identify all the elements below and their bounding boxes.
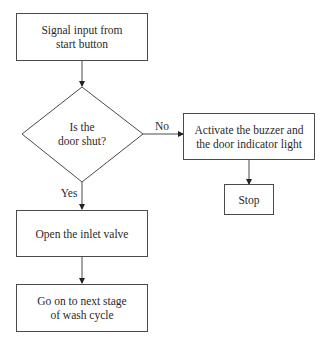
edge-label-yes: Yes	[58, 186, 80, 200]
open-valve-node-text: Open the inlet valve	[36, 227, 129, 241]
alarm-node: Activate the buzzer and the door indicat…	[183, 113, 315, 160]
open-valve-node: Open the inlet valve	[16, 210, 148, 257]
next-stage-node: Go on to next stage of wash cycle	[16, 284, 148, 332]
decision-text-line1: Is the	[42, 120, 122, 134]
next-stage-node-text: Go on to next stage of wash cycle	[25, 294, 139, 322]
start-node-text: Signal input from start button	[25, 23, 139, 51]
alarm-node-text: Activate the buzzer and the door indicat…	[192, 123, 306, 151]
stop-node-text: Stop	[238, 193, 259, 207]
decision-text-line2: door shut?	[42, 134, 122, 148]
stop-node: Stop	[224, 184, 274, 215]
start-node: Signal input from start button	[16, 13, 148, 61]
edge-label-no: No	[152, 119, 172, 133]
decision-text: Is the door shut?	[42, 120, 122, 148]
